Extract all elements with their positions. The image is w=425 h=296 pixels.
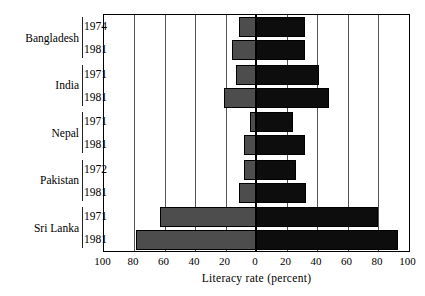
country-label-india: India: [55, 79, 79, 91]
group-bracket: [82, 207, 83, 248]
bar-right-nepal-1971: [256, 112, 293, 132]
year-label: 1974: [84, 20, 101, 32]
plot-area: [103, 14, 410, 252]
year-label: 1981: [84, 91, 101, 103]
x-axis-title: Literacy rate (percent): [103, 272, 410, 284]
bar-right-nepal-1981: [256, 135, 305, 155]
year-label: 1981: [84, 138, 101, 150]
bar-left-bangladesh-1974: [239, 17, 256, 37]
bar-left-india-1981: [224, 88, 256, 108]
year-label: 1971: [84, 115, 101, 127]
bar-left-pakistan-1972: [244, 160, 256, 180]
year-label: 1981: [84, 43, 101, 55]
group-bracket: [82, 160, 83, 201]
country-label-sri-lanka: Sri Lanka: [34, 222, 79, 234]
year-label: 1981: [84, 186, 101, 198]
zero-axis-line: [255, 15, 257, 251]
year-label: 1972: [84, 163, 101, 175]
literacy-rate-chart: 19741981Bangladesh19711981India19711981N…: [0, 0, 425, 296]
year-label: 1981: [84, 233, 101, 245]
bar-right-sri-lanka-1971: [256, 207, 378, 227]
group-bracket: [82, 17, 83, 58]
category-axis-labels: 19741981Bangladesh19711981India19711981N…: [0, 14, 103, 252]
group-bracket: [82, 65, 83, 106]
bar-right-pakistan-1972: [256, 160, 296, 180]
country-label-bangladesh: Bangladesh: [25, 32, 79, 44]
group-bracket: [82, 112, 83, 153]
x-tick-label: 100: [388, 254, 425, 268]
bar-right-india-1981: [256, 88, 329, 108]
country-label-nepal: Nepal: [52, 127, 79, 139]
year-label: 1971: [84, 210, 101, 222]
bar-right-bangladesh-1981: [256, 40, 305, 60]
bar-right-bangladesh-1974: [256, 17, 305, 37]
country-label-pakistan: Pakistan: [40, 174, 79, 186]
bar-right-pakistan-1981: [256, 183, 306, 203]
bar-left-nepal-1981: [244, 135, 256, 155]
bar-right-sri-lanka-1981: [256, 230, 398, 250]
bar-left-pakistan-1981: [239, 183, 256, 203]
bar-left-bangladesh-1981: [232, 40, 256, 60]
year-label: 1971: [84, 68, 101, 80]
bar-left-india-1971: [236, 65, 256, 85]
bar-left-sri-lanka-1981: [136, 230, 256, 250]
x-axis-tick-labels: 10080604020020406080100: [0, 254, 425, 270]
bar-right-india-1971: [256, 65, 319, 85]
bar-left-sri-lanka-1971: [160, 207, 256, 227]
